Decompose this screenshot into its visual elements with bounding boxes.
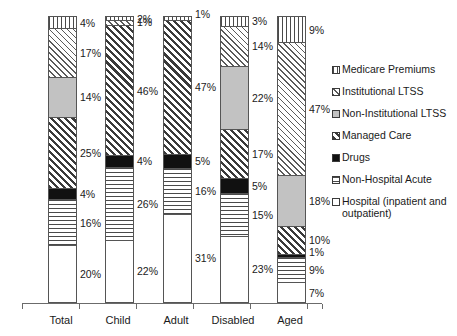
bar-segment[interactable]: 17% (49, 28, 76, 76)
stacked-bar[interactable]: 23%15%5%17%22%14%3% (220, 16, 249, 303)
bar-segment[interactable]: 14% (49, 77, 76, 117)
bar-segment[interactable]: 4% (49, 17, 76, 28)
segment-value-label: 46% (137, 86, 158, 97)
segment-value-label: 5% (195, 156, 210, 167)
segment-value-label: 1% (195, 9, 210, 19)
legend-item[interactable]: Managed Care (332, 130, 457, 142)
bar-segment[interactable]: 23% (221, 236, 248, 302)
plot-area: 20%16%4%25%14%17%4%22%26%4%46%2%1%31%16%… (0, 0, 330, 336)
legend-item[interactable]: Institutional LTSS (332, 86, 457, 98)
bar-segment[interactable]: 1% (106, 17, 133, 20)
legend-swatch-icon (332, 154, 340, 162)
segment-value-label: 20% (80, 269, 101, 280)
stacked-bar[interactable]: 22%26%4%46%2%1% (105, 16, 134, 303)
legend-item[interactable]: Medicare Premiums (332, 64, 457, 76)
legend-item[interactable]: Hospital (inpatient and outpatient) (332, 196, 457, 219)
legend-label: Drugs (342, 152, 370, 164)
segment-value-label: 4% (80, 189, 95, 200)
legend-swatch-icon (332, 198, 340, 206)
segment-value-label: 10% (309, 235, 330, 246)
segment-value-label: 16% (80, 217, 101, 228)
x-axis-line (22, 303, 322, 304)
segment-value-label: 5% (252, 181, 267, 192)
segment-value-label: 25% (80, 148, 101, 159)
segment-value-label: 15% (252, 209, 273, 220)
segment-value-label: 1% (137, 18, 152, 29)
category-label-aged: Aged (255, 315, 325, 326)
stacked-bar[interactable]: 20%16%4%25%14%17%4% (48, 16, 77, 303)
segment-value-label: 18% (309, 196, 330, 207)
legend-label: Non-Institutional LTSS (342, 108, 446, 120)
bar-segment[interactable]: 22% (221, 66, 248, 129)
segment-value-label: 22% (252, 93, 273, 104)
bar-segment[interactable]: 3% (221, 17, 248, 26)
bar-segment[interactable]: 2% (106, 20, 133, 26)
bar-segment[interactable]: 16% (49, 199, 76, 245)
legend-item[interactable]: Non-Institutional LTSS (332, 108, 457, 120)
bar-segment[interactable]: 26% (106, 167, 133, 240)
bar-segment[interactable]: 5% (221, 178, 248, 192)
segment-value-label: 16% (195, 186, 216, 197)
legend-swatch-icon (332, 110, 340, 118)
bar-segment[interactable]: 15% (221, 193, 248, 236)
segment-value-label: 7% (309, 287, 324, 298)
bar-segment[interactable]: 31% (164, 214, 191, 302)
segment-value-label: 17% (252, 149, 273, 160)
legend-swatch-icon (332, 88, 340, 96)
bar-segment[interactable]: 1% (278, 254, 305, 257)
segment-value-label: 9% (309, 25, 324, 36)
segment-value-label: 26% (137, 198, 158, 209)
axis-tick (307, 304, 308, 309)
legend-label: Medicare Premiums (342, 64, 435, 76)
bar-segment[interactable]: 47% (164, 20, 191, 154)
bar-segment[interactable]: 7% (278, 282, 305, 302)
bar-segment[interactable]: 9% (278, 257, 305, 282)
axis-tick (322, 304, 323, 309)
bar-segment[interactable]: 4% (106, 155, 133, 166)
legend-swatch-icon (332, 176, 340, 184)
bar-segment[interactable]: 18% (278, 175, 305, 226)
axis-tick (22, 304, 23, 309)
axis-tick (79, 304, 80, 309)
legend-label: Managed Care (342, 130, 411, 142)
segment-value-label: 47% (195, 82, 216, 93)
legend-swatch-icon (332, 132, 340, 140)
bar-segment[interactable]: 10% (278, 226, 305, 254)
chart-legend: Medicare PremiumsInstitutional LTSSNon-I… (332, 64, 457, 230)
bar-segment[interactable]: 5% (164, 154, 191, 168)
legend-item[interactable]: Non-Hospital Acute (332, 174, 457, 186)
stacked-bar[interactable]: 7%9%1%10%18%47%9% (277, 16, 306, 303)
segment-value-label: 47% (309, 104, 330, 115)
segment-value-label: 3% (252, 16, 267, 27)
axis-tick (193, 304, 194, 309)
segment-value-label: 31% (195, 253, 216, 264)
segment-value-label: 9% (309, 265, 324, 276)
bar-segment[interactable]: 47% (278, 42, 305, 175)
segment-value-label: 4% (80, 17, 95, 28)
segment-value-label: 17% (80, 48, 101, 59)
segment-value-label: 23% (252, 264, 273, 275)
bar-segment[interactable]: 22% (106, 240, 133, 302)
bar-segment[interactable]: 14% (221, 26, 248, 66)
segment-value-label: 14% (80, 92, 101, 103)
bar-segment[interactable]: 20% (49, 245, 76, 302)
bar-segment[interactable]: 17% (221, 129, 248, 178)
legend-label: Non-Hospital Acute (342, 174, 432, 186)
legend-item[interactable]: Drugs (332, 152, 457, 164)
segment-value-label: 1% (309, 247, 324, 257)
bar-segment[interactable]: 46% (106, 25, 133, 155)
bar-segment[interactable]: 16% (164, 168, 191, 214)
segment-value-label: 22% (137, 266, 158, 277)
stacked-bar[interactable]: 31%16%5%47%1% (163, 16, 192, 303)
bar-segment[interactable]: 4% (49, 188, 76, 199)
bar-segment[interactable]: 1% (164, 17, 191, 20)
legend-label: Hospital (inpatient and outpatient) (342, 196, 457, 219)
axis-tick (250, 304, 251, 309)
segment-value-label: 4% (137, 156, 152, 167)
segment-value-label: 14% (252, 41, 273, 52)
legend-label: Institutional LTSS (342, 86, 424, 98)
bar-segment[interactable]: 25% (49, 117, 76, 188)
legend-swatch-icon (332, 66, 340, 74)
stacked-bar-chart: 20%16%4%25%14%17%4%22%26%4%46%2%1%31%16%… (0, 0, 457, 336)
bar-segment[interactable]: 9% (278, 17, 305, 42)
